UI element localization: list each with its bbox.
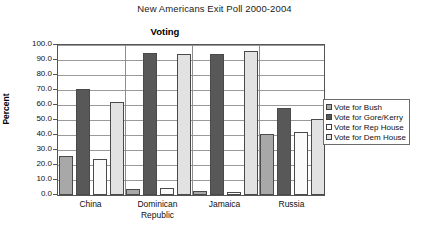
legend-swatch-icon <box>326 124 332 130</box>
y-tick-label: 90.0 <box>12 54 52 63</box>
legend: Vote for BushVote for Gore/KerryVote for… <box>323 99 410 145</box>
bar <box>143 53 157 196</box>
y-tick-label: 100.0 <box>12 39 52 48</box>
x-tick-label: China <box>57 199 124 210</box>
x-tick-label: Jamaica <box>191 199 258 210</box>
x-category-label: Jamaica <box>191 199 258 210</box>
group-separator <box>125 45 126 195</box>
gridline <box>58 60 324 61</box>
bar <box>160 188 174 196</box>
legend-swatch-icon <box>326 114 332 120</box>
legend-item: Vote for Gore/Kerry <box>326 112 406 122</box>
gridline <box>58 45 324 46</box>
bar <box>76 89 90 196</box>
bar <box>277 108 291 195</box>
bar <box>244 51 258 195</box>
y-tick-label: 20.0 <box>12 159 52 168</box>
x-category-label: DominicanRepublic <box>124 199 191 221</box>
gridline <box>58 75 324 76</box>
bar <box>110 102 124 195</box>
y-tick-label: 80.0 <box>12 69 52 78</box>
legend-item: Vote for Rep House <box>326 122 406 132</box>
y-tick-label: 70.0 <box>12 84 52 93</box>
y-tick-label: 10.0 <box>12 174 52 183</box>
bar <box>227 192 241 195</box>
x-tick-label: Republic <box>124 210 191 221</box>
super-title: New Americans Exit Poll 2000-2004 <box>0 3 429 14</box>
y-axis-label: Percent <box>1 79 11 139</box>
legend-swatch-icon <box>326 134 332 140</box>
bar <box>294 132 308 195</box>
legend-label: Vote for Rep House <box>334 123 404 132</box>
bar <box>193 191 207 196</box>
x-category-label: China <box>57 199 124 210</box>
y-tick-label: 60.0 <box>12 99 52 108</box>
x-category-label: Russia <box>258 199 325 210</box>
x-tick-label: Dominican <box>124 199 191 210</box>
chart-title: Voting <box>0 26 330 37</box>
y-tick-label: 0.0 <box>12 189 52 198</box>
bar <box>126 189 140 195</box>
y-tick-label: 40.0 <box>12 129 52 138</box>
bar <box>177 54 191 195</box>
bar <box>210 54 224 195</box>
bar <box>59 156 73 195</box>
bar <box>93 159 107 195</box>
group-separator <box>192 45 193 195</box>
y-tick-label: 30.0 <box>12 144 52 153</box>
x-tick-label: Russia <box>258 199 325 210</box>
legend-label: Vote for Bush <box>334 103 382 112</box>
legend-label: Vote for Dem House <box>334 133 406 142</box>
legend-swatch-icon <box>326 104 332 110</box>
y-tick-label: 50.0 <box>12 114 52 123</box>
legend-item: Vote for Bush <box>326 102 406 112</box>
legend-item: Vote for Dem House <box>326 132 406 142</box>
chart-container: New Americans Exit Poll 2000-2004 Voting… <box>0 0 429 236</box>
gridline <box>58 105 324 106</box>
gridline <box>58 90 324 91</box>
bar <box>260 134 274 196</box>
plot-area <box>57 44 325 196</box>
legend-label: Vote for Gore/Kerry <box>334 113 403 122</box>
